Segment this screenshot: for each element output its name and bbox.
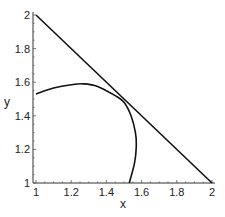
x-tick-label: 1.8 xyxy=(169,186,184,198)
plot-area: 11.21.41.61.8211.21.41.61.82xy xyxy=(0,0,225,217)
x-tick-label: 1.2 xyxy=(64,186,79,198)
series-curve xyxy=(36,84,136,183)
y-tick-label: 2 xyxy=(24,9,30,21)
x-tick-label: 1 xyxy=(33,186,39,198)
y-tick-label: 1.6 xyxy=(15,76,30,88)
x-axis-label: x xyxy=(120,197,126,211)
x-tick-label: 1.6 xyxy=(134,186,149,198)
y-tick-label: 1.2 xyxy=(15,143,30,155)
series-line xyxy=(36,15,212,183)
y-tick-label: 1 xyxy=(24,177,30,189)
y-axis-label: y xyxy=(4,95,10,109)
x-tick-label: 2 xyxy=(209,186,215,198)
y-tick-label: 1.8 xyxy=(15,43,30,55)
y-tick-label: 1.4 xyxy=(15,110,30,122)
x-tick-label: 1.4 xyxy=(99,186,114,198)
series-layer xyxy=(36,15,212,183)
